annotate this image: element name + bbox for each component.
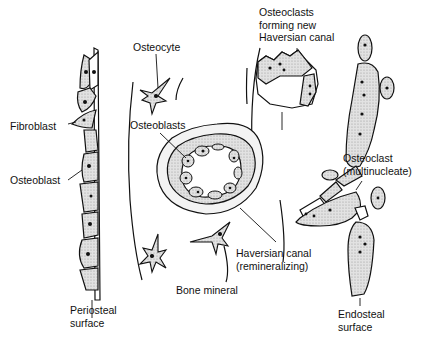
label-osteoclasts-forming: Osteoclasts forming new Haversian canal xyxy=(259,6,334,44)
label-osteoblast: Osteoblast xyxy=(10,174,60,187)
haversian-canal-remineralizing xyxy=(157,123,263,214)
label-endosteal-surface: Endosteal surface xyxy=(338,308,385,333)
label-osteoblasts: Osteoblasts xyxy=(130,119,185,132)
osteoclasts-forming-canal xyxy=(256,50,318,108)
label-bone-mineral: Bone mineral xyxy=(176,284,238,297)
osteocytes-bottom xyxy=(140,222,230,272)
osteocyte-top xyxy=(140,78,170,114)
label-osteoclast-multinucleate: Osteoclast (multinucleate) xyxy=(343,152,412,177)
label-periosteal-surface: Periosteal surface xyxy=(70,304,117,329)
label-osteocyte: Osteocyte xyxy=(133,41,180,54)
label-haversian-canal: Haversian canal (remineralizing) xyxy=(236,247,311,272)
label-fibroblast: Fibroblast xyxy=(10,120,56,133)
